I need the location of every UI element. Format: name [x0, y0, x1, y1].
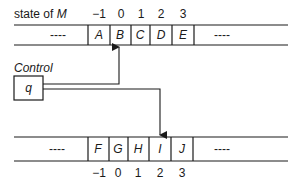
- tape-cell: F: [94, 142, 102, 156]
- turing-machine-diagram: state of M −1 0 1 2 3 ---- ---- A B C D …: [0, 0, 297, 184]
- tape-cell: E: [179, 28, 188, 42]
- top-index: 2: [158, 7, 165, 21]
- tape-cell: J: [178, 142, 186, 156]
- bottom-right-ellipsis: ----: [214, 142, 230, 156]
- bottom-index: −1: [92, 166, 106, 180]
- top-index: 0: [118, 7, 125, 21]
- bottom-tape-indices: −1 0 1 2 3: [92, 166, 186, 180]
- top-tape-cells: A B C D E: [94, 28, 188, 42]
- bottom-index: 0: [115, 166, 122, 180]
- tape-cell: D: [157, 28, 166, 42]
- bottom-left-ellipsis: ----: [49, 142, 65, 156]
- top-index: 3: [180, 7, 187, 21]
- top-left-ellipsis: ----: [50, 28, 66, 42]
- head-arrow-top: [43, 47, 119, 84]
- control-state-symbol: q: [25, 81, 32, 95]
- bottom-index: 3: [179, 166, 186, 180]
- top-index: 1: [138, 7, 145, 21]
- tape-cell: C: [136, 28, 145, 42]
- top-right-ellipsis: ----: [214, 28, 230, 42]
- bottom-tape-cells: F G H I J: [94, 142, 186, 156]
- state-title: state of M: [14, 7, 67, 21]
- bottom-index: 1: [135, 166, 142, 180]
- bottom-index: 2: [157, 166, 164, 180]
- tape-cell: G: [113, 142, 122, 156]
- control-label: Control: [14, 61, 53, 75]
- tape-cell: H: [134, 142, 143, 156]
- tape-cell: I: [158, 142, 162, 156]
- head-arrow-bottom: [43, 89, 160, 135]
- top-index: −1: [92, 7, 106, 21]
- top-tape-indices: −1 0 1 2 3: [92, 7, 187, 21]
- tape-cell: A: [94, 28, 103, 42]
- tape-cell: B: [116, 28, 124, 42]
